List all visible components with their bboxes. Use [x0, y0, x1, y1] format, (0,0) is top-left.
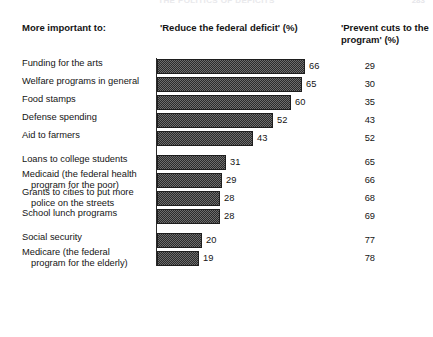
prevent-cuts-value: 29: [341, 60, 375, 72]
header-prevent-cuts-column: 'Prevent cuts to the program' (%): [341, 22, 433, 45]
column-headers: More important to: 'Reduce the federal d…: [0, 22, 433, 52]
bar: [157, 209, 220, 224]
bar: [157, 113, 273, 128]
chart-row: Funding for the arts6629: [0, 58, 433, 76]
row-label: Aid to farmers: [22, 130, 152, 141]
running-head: THE POLITICS OF DEFICITS 283: [0, 0, 433, 10]
bar: [157, 59, 305, 74]
row-label-line1: Social security: [22, 232, 82, 242]
bar-value-label: 20: [206, 234, 216, 246]
page-number: 283: [412, 0, 425, 5]
prevent-cuts-value: 35: [341, 96, 375, 108]
bar-value-label: 43: [257, 132, 267, 144]
row-label-line1: Medicaid (the federal health: [22, 169, 137, 179]
bar-value-label: 66: [309, 60, 319, 72]
row-label-line1: Defense spending: [22, 112, 97, 122]
bar: [157, 191, 220, 206]
bar-value-label: 28: [224, 192, 234, 204]
bar-value-label: 19: [203, 252, 213, 264]
prevent-cuts-value: 78: [341, 252, 375, 264]
chart-row: Medicare (the federalprogram for the eld…: [0, 250, 433, 268]
row-label-line1: Loans to college students: [22, 154, 127, 164]
bar: [157, 155, 226, 170]
header-deficit-column: 'Reduce the federal deficit' (%): [160, 22, 310, 34]
row-label: Defense spending: [22, 112, 152, 123]
chart-row: Grants to cities to put morepolice on th…: [0, 190, 433, 208]
bar: [157, 251, 199, 266]
prevent-cuts-value: 77: [341, 234, 375, 246]
prevent-cuts-value: 30: [341, 78, 375, 90]
chart-row: Food stamps6035: [0, 94, 433, 112]
row-label: Welfare programs in general: [22, 76, 152, 87]
prevent-cuts-value: 69: [341, 210, 375, 222]
bar-value-label: 65: [306, 78, 316, 90]
row-label-line1: Aid to farmers: [22, 130, 80, 140]
bar-value-label: 28: [224, 210, 234, 222]
row-label-line1: Funding for the arts: [22, 58, 103, 68]
row-label: Grants to cities to put morepolice on th…: [22, 187, 152, 208]
prevent-cuts-value: 43: [341, 114, 375, 126]
prevent-cuts-value: 68: [341, 192, 375, 204]
row-label: Loans to college students: [22, 154, 152, 165]
bar: [157, 131, 253, 146]
prevent-cuts-value: 66: [341, 174, 375, 186]
row-label-line1: School lunch programs: [22, 208, 117, 218]
bar: [157, 77, 302, 92]
chart-row: School lunch programs2869: [0, 208, 433, 226]
row-label: Funding for the arts: [22, 58, 152, 69]
bar: [157, 95, 291, 110]
row-label-line1: Welfare programs in general: [22, 76, 139, 86]
row-label-line1: Food stamps: [22, 94, 76, 104]
chart-row: Aid to farmers4352: [0, 130, 433, 148]
row-label: Medicare (the federalprogram for the eld…: [22, 247, 152, 268]
row-label-line1: Grants to cities to put more: [22, 187, 134, 197]
row-label: School lunch programs: [22, 208, 152, 219]
running-head-title: THE POLITICS OF DEFICITS: [0, 0, 433, 5]
row-label-line2: police on the streets: [22, 198, 152, 209]
row-label: Food stamps: [22, 94, 152, 105]
bar-value-label: 52: [277, 114, 287, 126]
chart-row: Welfare programs in general6530: [0, 76, 433, 94]
bar-value-label: 29: [226, 174, 236, 186]
row-label: Social security: [22, 232, 152, 243]
bar: [157, 173, 222, 188]
row-label-line2: program for the elderly): [22, 258, 152, 269]
prevent-cuts-value: 65: [341, 156, 375, 168]
bar-value-label: 31: [230, 156, 240, 168]
prevent-cuts-value: 52: [341, 132, 375, 144]
row-label-line1: Medicare (the federal: [22, 247, 110, 257]
bar: [157, 233, 202, 248]
header-row-label: More important to:: [22, 22, 106, 34]
chart-row: Defense spending5243: [0, 112, 433, 130]
bar-chart: Funding for the arts6629Welfare programs…: [0, 58, 433, 330]
bar-value-label: 60: [295, 96, 305, 108]
